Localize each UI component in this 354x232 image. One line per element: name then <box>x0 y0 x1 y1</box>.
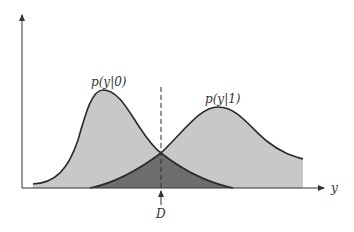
diagram-canvas: p(y|0) p(y|1) y D <box>0 0 354 232</box>
x-axis-label: y <box>330 181 338 195</box>
right-curve-label: p(y|1) <box>205 92 241 106</box>
left-curve-label: p(y|0) <box>91 75 127 89</box>
threshold-label: D <box>155 207 166 221</box>
